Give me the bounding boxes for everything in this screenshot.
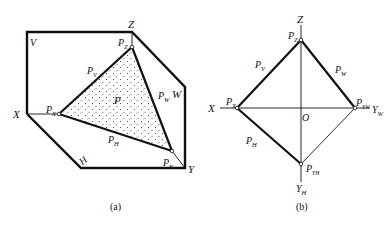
caption-a: (a) (110, 201, 121, 213)
point-py (170, 149, 174, 153)
label-pv: PV (86, 65, 98, 78)
label-pw-b: PW (334, 64, 347, 77)
caption-b: (b) (296, 201, 308, 213)
label-ph-b: PH (245, 135, 257, 148)
label-yw: YW (372, 104, 384, 117)
label-z: Z (128, 18, 135, 30)
figure-a: V Z X Y W H P PZ PX PY PV PW PH (a) (12, 18, 196, 213)
label-pv-b: PV (254, 59, 266, 72)
label-x: X (12, 108, 21, 120)
figure-b: Z X O YW YH PZ PX PYW PYH PV PW PH (b) (207, 13, 384, 213)
axis-y-segment (172, 151, 185, 168)
label-o: O (302, 112, 309, 123)
label-v: V (30, 37, 38, 48)
point-px (57, 112, 61, 116)
label-y: Y (188, 163, 196, 175)
label-x-b: X (207, 102, 216, 114)
label-pw: PW (157, 90, 170, 103)
label-pz-b: PZ (287, 30, 298, 43)
point-pz (130, 45, 134, 49)
label-pz: PZ (117, 37, 128, 50)
trace-pv-b (237, 40, 301, 108)
label-px: PX (45, 104, 57, 117)
label-plane-p: P (113, 94, 121, 106)
label-ph: PH (107, 134, 119, 147)
point-pz-b (299, 38, 303, 42)
label-z-b: Z (297, 13, 304, 25)
label-py: PY (162, 157, 174, 170)
projection-diagram: V Z X Y W H P PZ PX PY PV PW PH (a) Z X … (0, 0, 391, 225)
label-pyh-b: PYH (305, 163, 320, 176)
trace-pw-b (301, 40, 355, 108)
label-pyw-b: PYW (355, 97, 370, 110)
label-yh: YH (296, 183, 307, 196)
label-px-b: PX (225, 96, 237, 109)
label-w: W (172, 88, 182, 100)
point-pyh-b (299, 162, 303, 166)
